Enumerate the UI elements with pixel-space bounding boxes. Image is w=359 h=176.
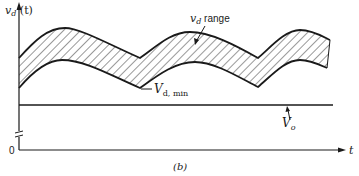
origin-label: 0: [9, 145, 15, 156]
x-axis-arrow-icon: [338, 148, 346, 153]
vo-arrow-icon: [286, 106, 291, 112]
vd-range-label: vd range: [190, 12, 230, 26]
x-axis-label: t: [349, 144, 354, 157]
ripple-voltage-diagram: vd (t) vd range Vd, min Vo 0 t (b): [0, 0, 359, 176]
y-axis-label: vd (t): [5, 4, 33, 18]
figure-caption: (b): [173, 161, 187, 172]
vo-label: Vo: [282, 116, 296, 132]
vdmin-label: Vd, min: [154, 82, 188, 98]
